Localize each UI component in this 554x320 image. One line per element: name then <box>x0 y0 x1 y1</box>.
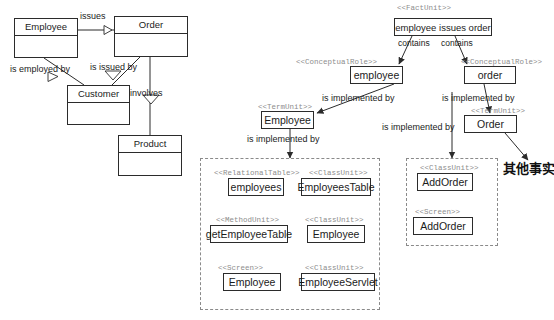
impl-unit-employee-servlet[interactable]: EmployeeServlet <box>301 273 375 291</box>
edge-label-involves: involves <box>130 88 163 98</box>
stereotype-term-unit-order: <<TermUnit>> <box>471 107 525 115</box>
stereotype-class-unit-employee: <<ClassUnit>> <box>305 216 364 224</box>
conceptual-role-employee-box[interactable]: employee <box>350 66 403 84</box>
impl-unit-employee-class[interactable]: Employee <box>307 225 365 243</box>
relation-issues <box>78 26 114 35</box>
impl-unit-employees-table-class[interactable]: EmployeesTable <box>301 178 371 196</box>
stereotype-conceptual-role-order: <<ConceptualRole>> <box>461 58 542 66</box>
stereotype-screen-add-order: <<Screen>> <box>415 208 460 216</box>
uml-class-customer[interactable]: Customer <box>67 85 130 125</box>
uml-class-order-attributes <box>115 34 187 56</box>
impl-unit-employee-screen[interactable]: Employee <box>223 273 281 291</box>
stereotype-class-unit-add-order: <<ClassUnit>> <box>420 164 479 172</box>
edge-label-implemented-by-employee-term: is implemented by <box>247 134 320 144</box>
edge-label-is-issued-by: is issued by <box>90 62 137 72</box>
fact-unit-box[interactable]: employee issues order <box>394 18 492 36</box>
other-facts-annotation: 其他事实 <box>503 158 554 177</box>
term-unit-employee-box[interactable]: Employee <box>261 111 314 129</box>
uml-class-customer-attributes <box>68 103 129 124</box>
stereotype-class-unit-employees-table: <<ClassUnit>> <box>309 169 368 177</box>
edge-label-is-employed-by: is employed by <box>10 64 70 74</box>
stereotype-class-unit-employee-servlet: <<ClassUnit>> <box>305 264 364 272</box>
stereotype-method-unit-get-employee-table: <<MethodUnit>> <box>216 216 279 224</box>
impl-unit-get-employee-table[interactable]: getEmployeeTable <box>210 225 288 243</box>
uml-class-order-title: Order <box>115 17 187 34</box>
term-unit-order-box[interactable]: Order <box>464 115 517 133</box>
edge-label-implemented-by-order-term: is implemented by <box>382 122 455 132</box>
edge-label-implemented-by-employee-role: is implemented by <box>322 93 395 103</box>
stereotype-relational-table-employees: <<RelationalTable>> <box>214 169 300 177</box>
impl-unit-add-order-class[interactable]: AddOrder <box>417 173 473 191</box>
diagram-canvas: Employee Order Customer Product issues i… <box>0 0 554 320</box>
edge-label-contains-order: contains <box>441 38 473 48</box>
stereotype-fact-unit: <<FactUnit>> <box>397 4 451 12</box>
stereotype-conceptual-role-employee: <<ConceptualRole>> <box>296 58 377 66</box>
uml-class-product-title: Product <box>119 136 181 153</box>
stereotype-term-unit-employee: <<TermUnit>> <box>258 103 312 111</box>
uml-class-customer-title: Customer <box>68 86 129 103</box>
impl-unit-add-order-screen[interactable]: AddOrder <box>413 217 473 235</box>
uml-class-employee-title: Employee <box>15 19 77 36</box>
relation-order-term-to-other-facts <box>505 133 528 160</box>
edge-label-issues: issues <box>80 11 106 21</box>
edge-label-implemented-by-order-role: is implemented by <box>442 93 515 103</box>
uml-class-employee-attributes <box>15 36 77 57</box>
uml-class-employee[interactable]: Employee <box>14 18 78 58</box>
stereotype-screen-employee: <<Screen>> <box>218 264 263 272</box>
uml-class-order[interactable]: Order <box>114 16 188 57</box>
edge-label-contains-employee: contains <box>398 38 430 48</box>
impl-unit-employees-table-relational[interactable]: employees <box>228 178 284 196</box>
uml-class-product[interactable]: Product <box>118 135 182 176</box>
uml-class-product-attributes <box>119 153 181 175</box>
conceptual-role-order-box[interactable]: order <box>464 66 516 84</box>
